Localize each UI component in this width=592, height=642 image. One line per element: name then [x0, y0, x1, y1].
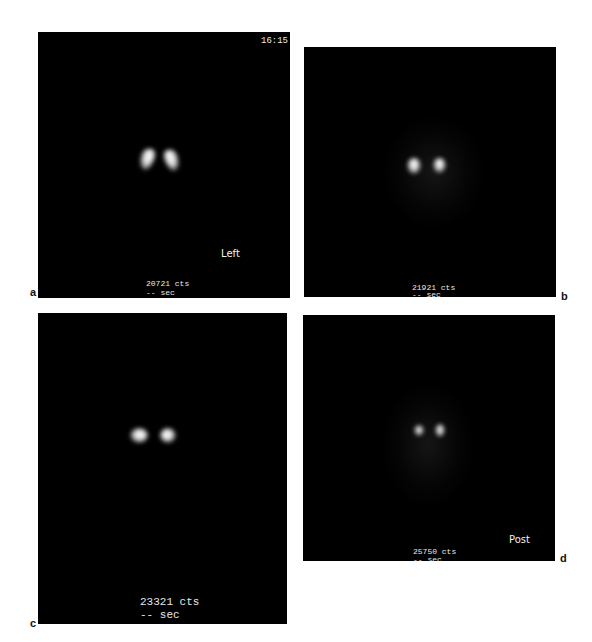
panel-label-a: a — [30, 286, 36, 298]
panel-label-b: b — [561, 290, 568, 302]
panel-label-d: d — [560, 552, 567, 564]
uptake-right-lobe — [433, 158, 446, 173]
uptake-right-lobe — [162, 147, 183, 172]
time-label: -- sec — [146, 288, 175, 297]
scan-panel-a: 16:15 Left 20721 cts -- sec — [38, 32, 290, 298]
background-haze — [384, 117, 484, 227]
view-label: Left — [221, 248, 240, 259]
uptake-right-lobe — [435, 424, 445, 437]
time-label: -- sec — [140, 609, 180, 621]
uptake-left-lobe — [414, 425, 424, 436]
uptake-left-lobe — [407, 158, 421, 174]
uptake-right-lobe — [160, 428, 176, 443]
time-label: -- sec — [412, 290, 441, 297]
scan-panel-c: 23321 cts -- sec — [38, 313, 287, 624]
background-haze — [383, 385, 473, 505]
count-label: 23321 cts — [140, 596, 199, 608]
panel-label-c: c — [30, 617, 36, 629]
count-label: 20721 cts — [146, 279, 189, 288]
uptake-left-lobe — [130, 428, 148, 443]
scan-panel-d: Post 25750 cts -- sec — [303, 315, 555, 561]
view-label: Post — [509, 534, 530, 545]
timestamp: 16:15 — [261, 36, 288, 46]
uptake-left-lobe — [137, 146, 158, 171]
time-label: -- sec — [413, 555, 442, 561]
scan-panel-b: 21921 cts -- sec — [304, 47, 556, 297]
